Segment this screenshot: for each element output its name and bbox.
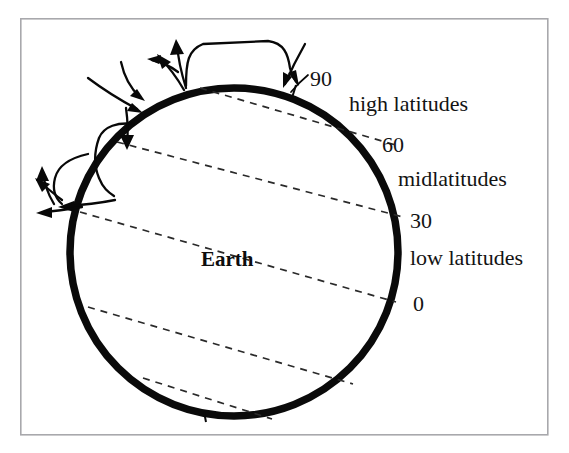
- zone-label-high-latitudes: high latitudes: [349, 91, 468, 116]
- earth-label: Earth: [201, 247, 254, 271]
- zone-label-midlatitudes: midlatitudes: [398, 166, 507, 191]
- polar-cell-group: [186, 41, 308, 92]
- latitude-label-90: 90: [310, 66, 332, 91]
- latitude-label-60: 60: [382, 132, 404, 157]
- ferrel-descend-arrowhead: [130, 89, 145, 101]
- polar-cell-loop: [186, 41, 298, 86]
- latitude-label-0: 0: [413, 291, 424, 316]
- lowcell-surface-outflow-arrowhead: [36, 207, 52, 218]
- ferrel-rising-arrowhead-a: [170, 39, 184, 55]
- latitude-label-30: 30: [410, 208, 432, 233]
- zone-label-low-latitudes: low latitudes: [410, 245, 523, 270]
- figure-page: 90 60 30 0 high latitudes midlatitudes l…: [0, 0, 569, 453]
- ferrel-outflow-arrowhead: [147, 55, 161, 64]
- lowcell-rising-arrowhead: [36, 166, 49, 181]
- earth-circulation-diagram: 90 60 30 0 high latitudes midlatitudes l…: [0, 0, 569, 453]
